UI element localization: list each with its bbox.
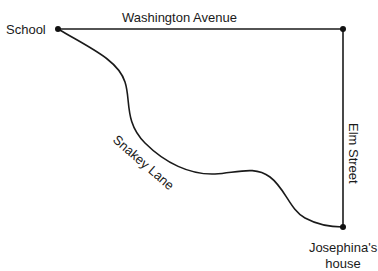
- school-label: School: [6, 22, 46, 37]
- josephinas-house-label-line1: Josephina's: [309, 240, 378, 255]
- snakey-lane-road: [58, 29, 343, 227]
- josephinas-house-point: [340, 224, 346, 230]
- washington-avenue-label: Washington Avenue: [122, 10, 237, 25]
- school-point: [55, 26, 61, 32]
- route-map: School Washington Avenue Elm Street Snak…: [0, 0, 378, 271]
- josephinas-house-label-line2: house: [325, 256, 360, 271]
- elm-street-label: Elm Street: [346, 123, 361, 184]
- corner-point: [340, 26, 346, 32]
